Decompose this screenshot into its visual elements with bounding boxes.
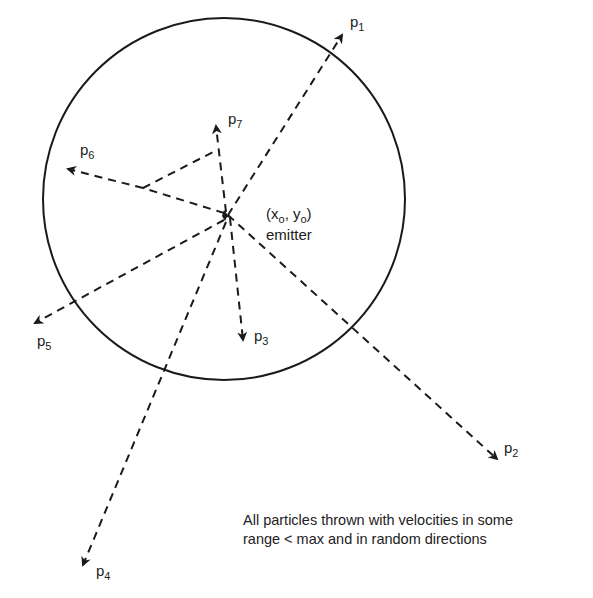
label-p3: p3 [254, 327, 268, 347]
boundary-circle [43, 18, 405, 380]
label-p2: p2 [504, 439, 518, 459]
trajectory-p7 [216, 126, 226, 212]
label-p6: p6 [80, 141, 94, 161]
label-p7: p7 [228, 110, 242, 130]
trajectory-p1 [228, 35, 342, 215]
emitter-coordinates-label: (xo, yo) [266, 205, 312, 225]
caption-line-1: All particles thrown with velocities in … [243, 511, 593, 530]
emitter-label: emitter [266, 226, 312, 243]
trajectory-p3 [230, 218, 243, 340]
trajectory-p5 [35, 220, 224, 323]
trajectory-p6 [68, 169, 143, 188]
label-p1: p1 [350, 13, 364, 33]
caption-note: All particles thrown with velocities in … [243, 511, 593, 549]
trajectory-bend-to-corner [143, 150, 217, 188]
label-p5: p5 [37, 332, 51, 352]
label-p4: p4 [96, 562, 110, 582]
particle-emitter-diagram: p1 p2 p3 p4 p5 p6 p7 (xo, yo) emitter [0, 0, 593, 598]
trajectory-p4 [83, 222, 226, 565]
trajectory-emitter-to-bend [143, 188, 224, 213]
caption-line-2: range < max and in random directions [243, 530, 593, 549]
